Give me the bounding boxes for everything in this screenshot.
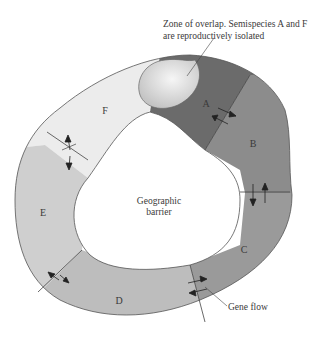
label-e: E <box>40 207 46 218</box>
overlap-annotation-line2: are reproductively isolated <box>163 31 265 41</box>
gene-flow-label: Gene flow <box>228 302 268 312</box>
barrier-label-line1: Geographic <box>137 196 181 206</box>
barrier-label-line2: barrier <box>146 207 172 217</box>
label-c: C <box>241 244 248 255</box>
ring-species-diagram: A B C D E F Zone of overlap. Semispecies… <box>0 0 327 344</box>
overlap-annotation-line1: Zone of overlap. Semispecies A and F <box>163 19 307 29</box>
label-a: A <box>202 98 210 109</box>
label-f: F <box>102 105 108 116</box>
label-b: B <box>250 138 257 149</box>
label-d: D <box>115 295 122 306</box>
